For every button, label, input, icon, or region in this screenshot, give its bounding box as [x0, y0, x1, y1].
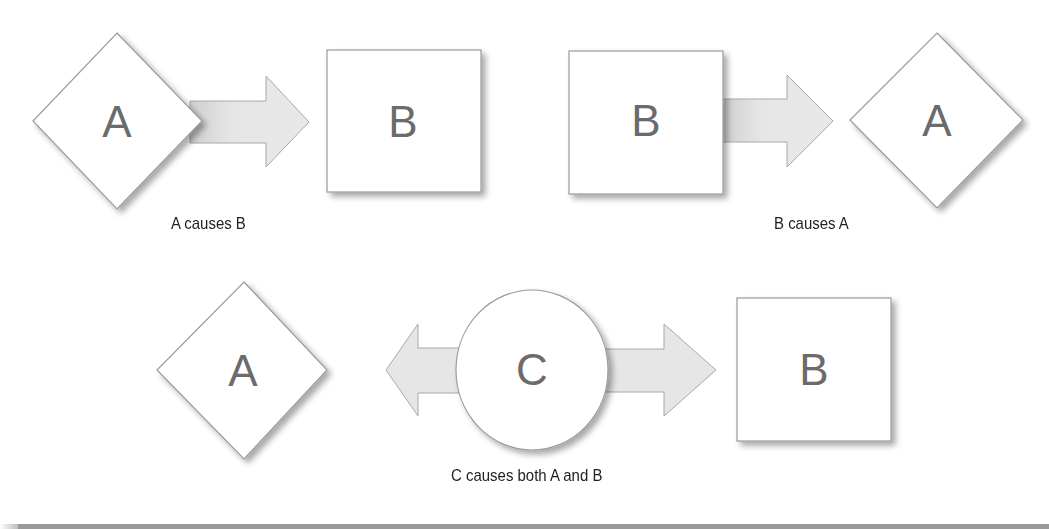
caption-c-causes-both: C causes both A and B	[451, 466, 602, 486]
arrow-b-to-a	[722, 75, 833, 167]
panel-b-causes-a: B A	[569, 33, 1023, 208]
panel-a-causes-b: A B	[33, 33, 481, 209]
node-label-a: A	[228, 346, 258, 395]
caption-b-causes-a: B causes A	[774, 214, 849, 234]
node-label-a: A	[102, 97, 132, 146]
caption-a-causes-b: A causes B	[171, 214, 246, 234]
node-label-c: C	[516, 345, 548, 394]
node-label-b: B	[799, 345, 828, 394]
bottom-rule-fade	[0, 524, 18, 529]
bottom-rule	[18, 524, 1049, 529]
panel-c-causes-both: C A B	[157, 282, 891, 459]
node-label-b: B	[631, 96, 660, 145]
node-label-a: A	[922, 96, 952, 145]
node-label-b: B	[388, 97, 417, 146]
arrow-a-to-b	[190, 76, 309, 167]
causation-diagram: A B B A C A B	[0, 0, 1049, 529]
arrow-c-to-b	[600, 324, 716, 416]
